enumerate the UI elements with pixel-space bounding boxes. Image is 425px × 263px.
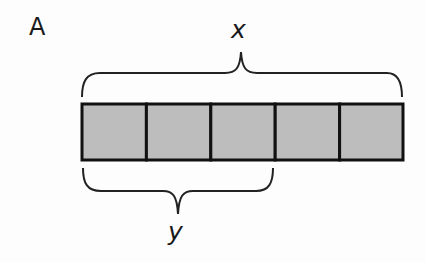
tape-segment xyxy=(146,104,210,160)
tape-segment xyxy=(82,104,146,160)
tape-diagram xyxy=(0,0,425,263)
tape xyxy=(82,104,403,160)
bottom-brace xyxy=(83,168,273,214)
tape-segment xyxy=(340,104,403,160)
tape-segment xyxy=(275,104,339,160)
tape-segment xyxy=(211,104,275,160)
top-brace xyxy=(82,52,402,97)
